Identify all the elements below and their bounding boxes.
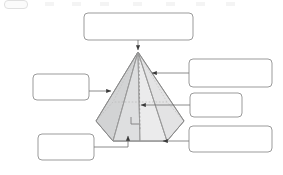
label-box-height[interactable] [190, 93, 242, 117]
label-box-lateral-face[interactable] [189, 59, 272, 87]
diagram-canvas [0, 0, 283, 175]
label-box-apex[interactable] [84, 13, 193, 40]
label-box-base-edge[interactable] [38, 134, 94, 160]
label-box-slant-edge[interactable] [33, 74, 89, 100]
hexagonal-pyramid-solid [96, 52, 184, 141]
label-box-base-vertex[interactable] [189, 126, 272, 152]
